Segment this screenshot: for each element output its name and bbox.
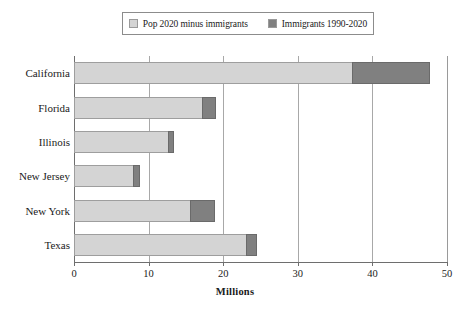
y-axis-labels: CaliforniaFloridaIllinoisNew JerseyNew Y…	[0, 56, 70, 262]
x-tick-label-50: 50	[432, 268, 462, 279]
bar-segment-immigrants	[352, 62, 430, 84]
legend-swatch-pop-2020-minus-immigrants	[129, 19, 138, 28]
bar-segment-base	[74, 200, 190, 222]
x-tick-label-20: 20	[208, 268, 238, 279]
legend-entry-pop-2020-minus-immigrants: Pop 2020 minus immigrants	[129, 19, 248, 29]
tickmark-30	[298, 262, 299, 266]
x-tick-label-10: 10	[134, 268, 164, 279]
tickmark-40	[372, 262, 373, 266]
y-tick-label-california: California	[2, 67, 70, 79]
gridline-40	[372, 56, 373, 262]
legend-label-immigrants-1990-2020: Immigrants 1990-2020	[282, 19, 367, 29]
legend-entry-immigrants-1990-2020: Immigrants 1990-2020	[268, 19, 367, 29]
y-tick-label-texas: Texas	[2, 239, 70, 251]
y-tick-label-illinois: Illinois	[2, 136, 70, 148]
x-axis-line	[74, 262, 448, 263]
x-tick-label-40: 40	[357, 268, 387, 279]
bar-chart: Pop 2020 minus immigrants Immigrants 199…	[0, 0, 470, 317]
bar-segment-base	[74, 62, 352, 84]
bar-row	[74, 234, 257, 256]
legend-label-pop-2020-minus-immigrants: Pop 2020 minus immigrants	[143, 19, 248, 29]
bar-segment-base	[74, 97, 202, 119]
bar-segment-immigrants	[168, 131, 174, 153]
gridline-30	[298, 56, 299, 262]
x-axis-title: Millions	[0, 286, 470, 297]
bar-row	[74, 200, 215, 222]
y-tick-label-florida: Florida	[2, 102, 70, 114]
bar-segment-base	[74, 165, 133, 187]
bar-segment-immigrants	[202, 97, 216, 119]
bar-row	[74, 131, 174, 153]
bar-segment-immigrants	[190, 200, 215, 222]
x-tick-label-0: 0	[59, 268, 89, 279]
gridline-20	[223, 56, 224, 262]
bar-row	[74, 97, 216, 119]
tickmark-50	[447, 262, 448, 266]
chart-legend: Pop 2020 minus immigrants Immigrants 199…	[122, 12, 374, 35]
bar-segment-immigrants	[246, 234, 256, 256]
tickmark-20	[223, 262, 224, 266]
plot-right-border	[447, 56, 448, 262]
bar-segment-base	[74, 131, 168, 153]
legend-swatch-immigrants-1990-2020	[268, 19, 277, 28]
y-tick-label-new-york: New York	[2, 205, 70, 217]
gridline-10	[149, 56, 150, 262]
plot-area	[74, 56, 448, 262]
tickmark-10	[149, 262, 150, 266]
y-tick-label-new-jersey: New Jersey	[2, 170, 70, 182]
bar-segment-base	[74, 234, 246, 256]
bar-row	[74, 165, 140, 187]
bar-segment-immigrants	[133, 165, 140, 187]
y-axis-line	[74, 56, 75, 262]
x-tick-label-30: 30	[283, 268, 313, 279]
bar-row	[74, 62, 430, 84]
tickmark-0	[74, 262, 75, 266]
